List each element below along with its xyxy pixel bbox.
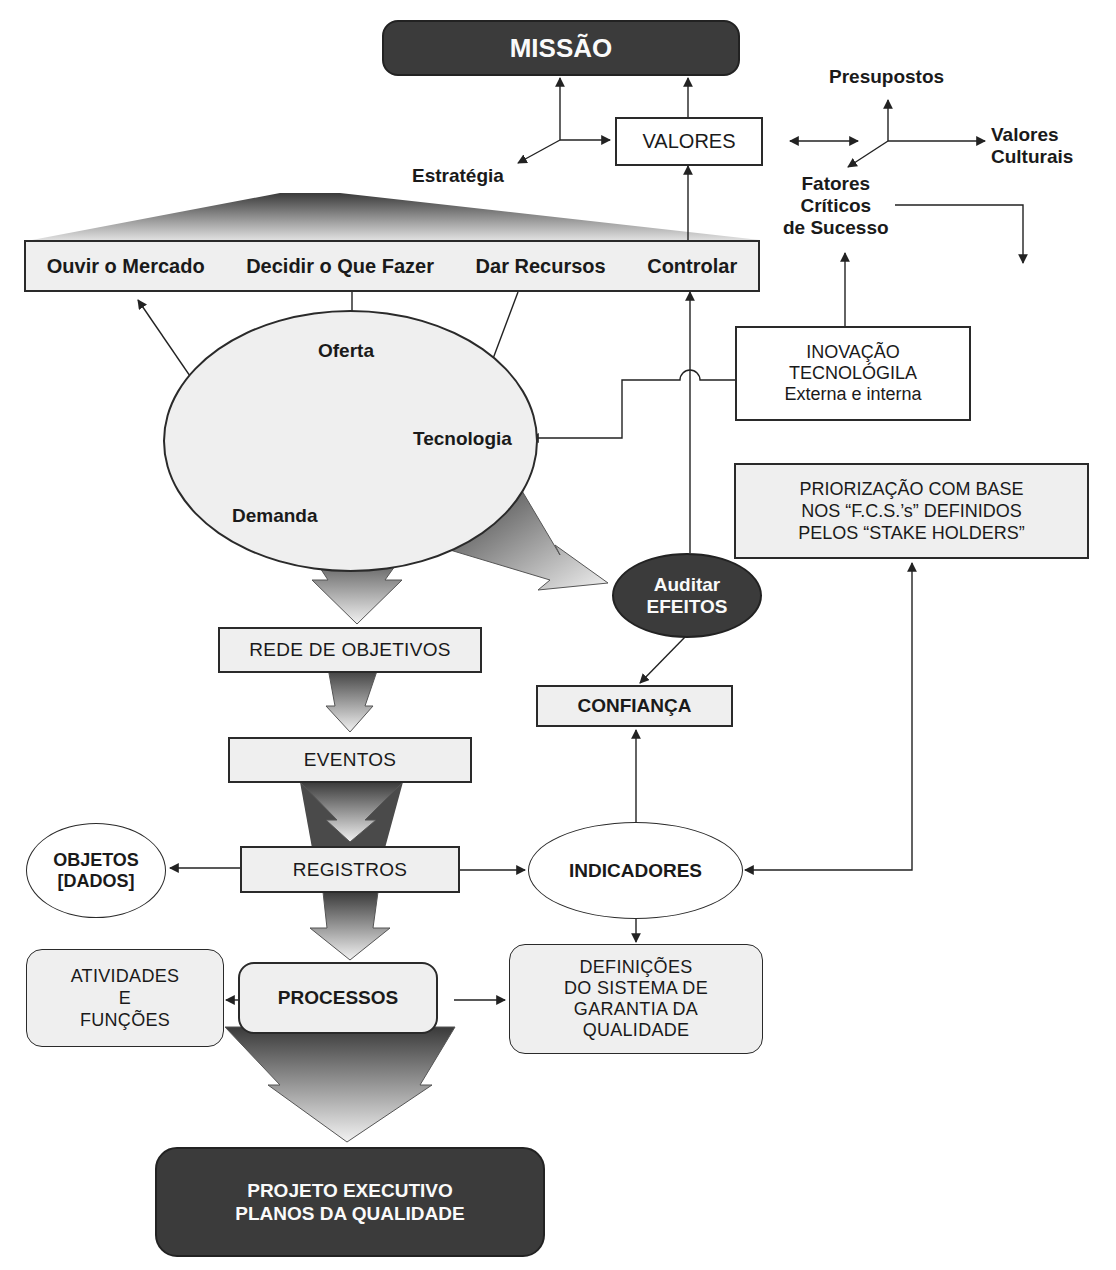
processos-label: PROCESSOS [278,987,398,1009]
confianca-box: CONFIANÇA [536,685,733,727]
priorizacao-label: PRIORIZAÇÃO COM BASE NOS “F.C.S.’s” DEFI… [798,478,1025,544]
registros-box: REGISTROS [240,846,460,893]
definicoes-box: DEFINIÇÕES DO SISTEMA DE GARANTIA DA QUA… [509,944,763,1054]
arrow-registros-to-processos [310,892,390,960]
objetos-label: OBJETOS [DADOS] [53,850,139,892]
valores-culturais-label: Valores Culturais [991,124,1073,168]
valores-label: VALORES [643,130,736,153]
estrategia-label: Estratégia [412,165,504,187]
indicadores-label: INDICADORES [569,860,702,882]
atividades-label: ATIVIDADES E FUNÇÕES [71,965,180,1031]
eventos-label: EVENTOS [304,749,397,771]
inovacao-line1: INOVAÇÃO [806,342,900,363]
indicadores-ellipse: INDICADORES [528,822,743,919]
processos-box: PROCESSOS [238,962,438,1034]
auditar-label: Auditar EFEITOS [647,574,728,618]
arrow-processos-to-projeto [225,1027,455,1142]
rede-objetivos-box: REDE DE OBJETIVOS [218,627,482,673]
bar-item-decidir: Decidir o Que Fazer [246,255,434,278]
definicoes-label: DEFINIÇÕES DO SISTEMA DE GARANTIA DA QUA… [564,957,708,1041]
fatores-criticos-label: Fatores Críticos de Sucesso [783,173,889,239]
inovacao-line2: TECNOLÓGILA [789,363,917,384]
rede-objetivos-label: REDE DE OBJETIVOS [249,639,450,661]
bar-item-controlar: Controlar [647,255,737,278]
inovacao-box: INOVAÇÃO TECNOLÓGILA Externa e interna [735,326,971,421]
demanda-label: Demanda [232,505,318,527]
confianca-label: CONFIANÇA [578,695,692,717]
arrow-rede-to-eventos [326,668,378,732]
auditar-ellipse: Auditar EFEITOS [612,553,762,638]
oferta-label: Oferta [318,340,374,362]
projeto-label: PROJETO EXECUTIVO PLANOS DA QUALIDADE [235,1179,464,1225]
missao-label: MISSÃO [510,33,613,64]
connector-layer [0,0,1116,1270]
tecnologia-label: Tecnologia [413,428,512,450]
valores-box: VALORES [615,117,763,166]
inovacao-line3: Externa e interna [784,384,921,405]
projeto-box: PROJETO EXECUTIVO PLANOS DA QUALIDADE [155,1147,545,1257]
eventos-box: EVENTOS [228,737,472,783]
bar-item-ouvir-mercado: Ouvir o Mercado [47,255,205,278]
presupostos-label: Presupostos [829,66,944,88]
missao-box: MISSÃO [382,20,740,76]
atividades-box: ATIVIDADES E FUNÇÕES [26,949,224,1047]
registros-label: REGISTROS [293,859,408,881]
priorizacao-box: PRIORIZAÇÃO COM BASE NOS “F.C.S.’s” DEFI… [734,463,1089,559]
objetos-ellipse: OBJETOS [DADOS] [26,823,166,918]
strategy-fan [32,193,760,240]
management-bar: Ouvir o Mercado Decidir o Que Fazer Dar … [24,240,760,292]
bar-item-dar-recursos: Dar Recursos [476,255,606,278]
